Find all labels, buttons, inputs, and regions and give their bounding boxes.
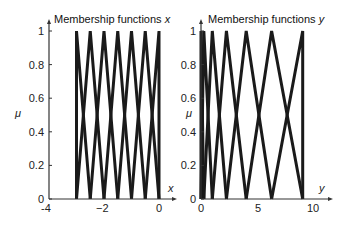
y-tick-label: 0.4 — [29, 126, 44, 138]
membership-function-2 — [77, 31, 105, 199]
x-axis-label-right: y — [318, 182, 326, 194]
x-tick-left-1: −2 — [96, 202, 109, 214]
y-tick-label: 0.8 — [181, 59, 196, 71]
x-tick-right-0: 0 — [198, 202, 204, 214]
y-tick-label: 1 — [190, 25, 196, 37]
y-axis-arrow-icon — [199, 19, 203, 24]
membership-function-6 — [246, 31, 303, 199]
y-axis-label-left: μ — [14, 107, 21, 119]
plot-membership-y: Membership functions y 00.20.40.60.81 0 … — [181, 13, 333, 214]
y-tick-label: 0.2 — [29, 159, 44, 171]
x-axis-label-left: x — [167, 182, 174, 194]
membership-function-3 — [90, 31, 118, 199]
membership-function-4 — [104, 31, 132, 199]
y-tick-label: 1 — [38, 25, 44, 37]
x-tick-left-0: -4 — [41, 202, 51, 214]
y-tick-label: 0 — [190, 193, 196, 205]
x-tick-left-2: 0 — [156, 202, 162, 214]
plot-title-x: Membership functions x — [54, 13, 171, 25]
plot-membership-x: Membership functions x 00.20.40.60.81 -4… — [14, 13, 177, 214]
membership-function-6 — [132, 31, 160, 199]
x-tick-right-2: 10 — [307, 202, 319, 214]
membership-lines-x — [77, 31, 160, 199]
x-axis-arrow-icon — [328, 197, 333, 201]
x-tick-right-1: 5 — [255, 202, 261, 214]
y-tick-label: 0.6 — [29, 92, 44, 104]
y-axis-label-right: μ — [185, 107, 192, 119]
y-axis-arrow-icon — [47, 19, 51, 24]
y-tick-label: 0.2 — [181, 159, 196, 171]
membership-function-5 — [118, 31, 146, 199]
membership-lines-y — [201, 31, 303, 199]
chart-canvas: Membership functions x 00.20.40.60.81 -4… — [0, 0, 349, 229]
y-tick-label: 0.4 — [181, 126, 196, 138]
x-axis-arrow-icon — [172, 197, 177, 201]
y-tick-label: 0.8 — [29, 59, 44, 71]
y-tick-label: 0.6 — [181, 92, 196, 104]
plot-title-y: Membership functions y — [208, 13, 326, 25]
